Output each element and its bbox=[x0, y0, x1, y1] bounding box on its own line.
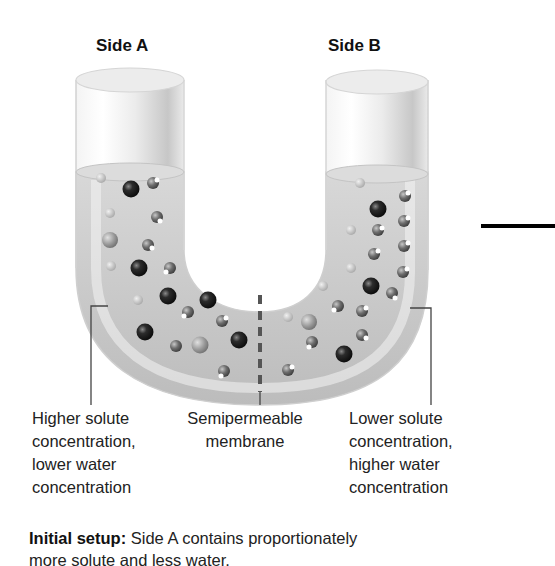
membrane-caption: Semipermeable membrane bbox=[176, 407, 314, 453]
caption-line: concentration, bbox=[349, 430, 453, 453]
caption-line: membrane bbox=[176, 430, 314, 453]
caption-line: Semipermeable bbox=[176, 407, 314, 430]
caption-line: concentration, bbox=[32, 430, 136, 453]
left-caption: Higher solute concentration, lower water… bbox=[32, 407, 136, 499]
figure-footer: Initial setup: Side A contains proportio… bbox=[29, 527, 529, 566]
right-caption: Lower solute concentration, higher water… bbox=[349, 407, 453, 499]
footer-text-line2: more solute and less water. bbox=[29, 549, 529, 566]
footer-text: Side A contains proportionately bbox=[126, 529, 357, 547]
caption-line: Higher solute bbox=[32, 407, 136, 430]
caption-line: concentration bbox=[349, 476, 453, 499]
caption-line: higher water bbox=[349, 453, 453, 476]
footer-label: Initial setup: bbox=[29, 529, 126, 547]
u-tube bbox=[76, 68, 428, 405]
caption-line: Lower solute bbox=[349, 407, 453, 430]
caption-line: concentration bbox=[32, 476, 136, 499]
caption-line: lower water bbox=[32, 453, 136, 476]
